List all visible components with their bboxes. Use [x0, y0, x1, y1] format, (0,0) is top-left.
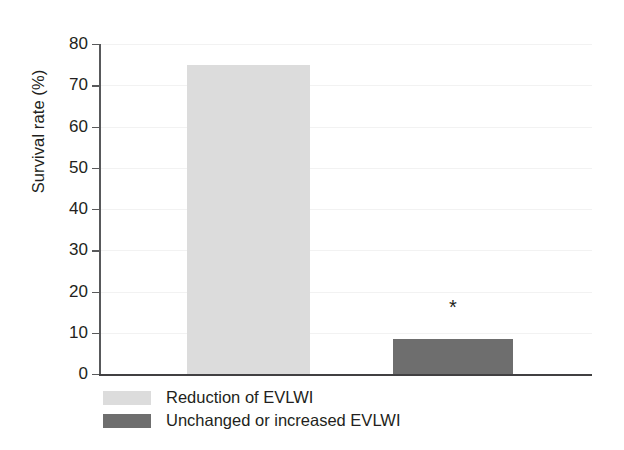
gridline — [100, 44, 592, 45]
legend-label-reduction: Reduction of EVLWI — [166, 389, 313, 406]
gridline — [100, 85, 592, 86]
bar-2 — [393, 339, 513, 374]
y-tick-label: 20 — [48, 283, 88, 300]
bar-1 — [187, 65, 310, 374]
y-axis-line — [99, 44, 101, 375]
legend: Reduction of EVLWI Unchanged or increase… — [103, 386, 401, 432]
gridline — [100, 209, 592, 210]
y-tick-label: 10 — [48, 324, 88, 341]
y-axis-title: Survival rate (%) — [29, 32, 48, 232]
y-tick-label: 50 — [48, 159, 88, 176]
y-tick-label: 60 — [48, 118, 88, 135]
legend-item-unchanged: Unchanged or increased EVLWI — [103, 409, 401, 432]
legend-label-unchanged: Unchanged or increased EVLWI — [166, 412, 401, 429]
y-tick-label: 30 — [48, 241, 88, 258]
gridline — [100, 127, 592, 128]
significance-asterisk: * — [441, 297, 465, 317]
chart-figure: Survival rate (%) 80706050403020100 * Re… — [0, 0, 624, 450]
y-tick-label: 80 — [48, 35, 88, 52]
plot-area: * — [100, 44, 592, 374]
gridline — [100, 333, 592, 334]
x-axis-line — [99, 374, 592, 376]
gridline — [100, 250, 592, 251]
y-tick-label: 0 — [48, 365, 88, 382]
gridline — [100, 168, 592, 169]
legend-item-reduction: Reduction of EVLWI — [103, 386, 401, 409]
y-tick-label: 40 — [48, 200, 88, 217]
legend-swatch-dark — [103, 414, 151, 428]
legend-swatch-light — [103, 391, 151, 405]
gridline — [100, 292, 592, 293]
y-tick-label: 70 — [48, 76, 88, 93]
